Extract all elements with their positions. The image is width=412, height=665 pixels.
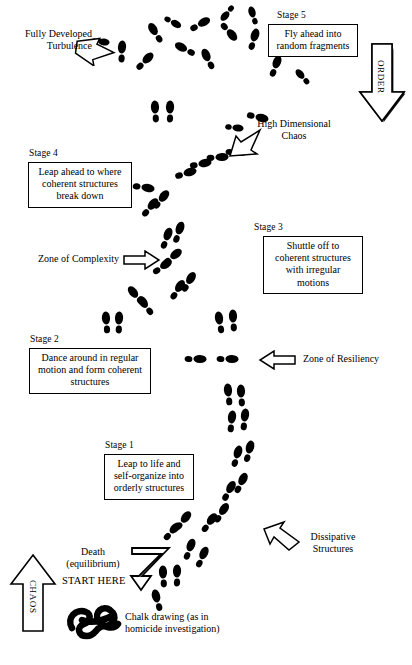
stage-box-line: structures (35, 376, 145, 388)
annotation-chalk-drawing: Chalk drawing (as in homicide investigat… (125, 611, 220, 635)
footprint-scatter-22 (117, 40, 127, 63)
stage-box-line: Dance around in regular (35, 352, 145, 364)
annotation-fully-developed-turbulence: Fully Developed Turbulence (6, 28, 92, 52)
footprint-pair-04 (161, 509, 193, 542)
stage-label-3: Stage 3 (254, 222, 283, 233)
footprint-pair-12 (102, 311, 124, 333)
footprint-scatter-24 (163, 15, 196, 59)
zigzag-arrow-down-icon (128, 545, 174, 593)
annotation-start-here: START HERE (62, 575, 126, 587)
footprint-pair-20 (132, 181, 155, 193)
stage-box-2: Dance around in regular motion and form … (29, 348, 151, 394)
annotation-line: (equilibrium) (57, 558, 129, 570)
footprint-scatter-23 (134, 21, 164, 71)
arrow-up-left-icon (262, 520, 302, 552)
footprint-scatter-25 (188, 15, 216, 70)
order-arrow-label: ORDER (376, 60, 386, 94)
order-arrow: ORDER (357, 42, 407, 124)
stage-box-line: coherent structures (34, 178, 126, 190)
annotation-line: Zone of Resiliency (303, 353, 379, 365)
stage-label-1: Stage 1 (105, 440, 134, 451)
stage-box-line: Leap ahead to where (34, 166, 126, 178)
stage-label-5: Stage 5 (277, 10, 306, 21)
stage-box-1: Leap to life and self-organize into orde… (104, 454, 194, 500)
annotation-line: Chalk drawing (as in (125, 611, 220, 623)
footprint-pair-14 (168, 270, 198, 301)
footprint-pair-18 (174, 158, 212, 180)
annotation-line: START HERE (62, 575, 126, 587)
footprint-pair-05 (199, 501, 231, 533)
stage-box-5: Fly ahead into random fragments (268, 24, 358, 57)
annotation-line: homicide investigation) (125, 623, 220, 635)
stage-label-4: Stage 4 (29, 148, 58, 159)
footprint-pair-09 (223, 383, 245, 406)
stage-box-line: break down (34, 190, 126, 202)
footprint-pair-11 (214, 309, 238, 334)
annotation-line: Death (57, 546, 129, 558)
annotation-death-equilibrium: Death (equilibrium) (57, 546, 129, 570)
annotation-line: Turbulence (6, 40, 92, 52)
diagram-canvas: ORDER CHAOS (0, 0, 412, 665)
footprint-pair-10-sideways (184, 354, 238, 363)
footprint-scatter-26 (219, 4, 240, 43)
annotation-line: Structures (297, 543, 369, 555)
footprint-scatter-31 (294, 67, 311, 86)
chaos-arrow-label: CHAOS (28, 580, 38, 614)
annotation-zone-of-resiliency: Zone of Resiliency (303, 353, 379, 365)
stage-box-line: Leap to life and (110, 458, 188, 470)
stage-box-line: self-organize into (110, 470, 188, 482)
footprint-pair-13 (126, 284, 155, 317)
stage-box-line: Shuttle off to (269, 240, 357, 252)
footprint-scatter-27 (246, 6, 261, 51)
annotation-line: Zone of Complexity (38, 253, 119, 265)
footprint-pair-16 (158, 220, 186, 249)
annotation-dissipative-structures: Dissipative Structures (297, 531, 369, 555)
stage-box-line: orderly structures (110, 482, 188, 494)
footprint-pair-03 (181, 537, 210, 568)
arrow-right-icon (123, 250, 161, 270)
stage-box-line: motion and form coherent (35, 364, 145, 376)
footprint-pair-17 (140, 188, 172, 218)
footprint-pair-07 (229, 440, 255, 468)
stage-box-line: coherent structures (269, 252, 357, 264)
chaos-arrow: CHAOS (8, 552, 58, 634)
stage-box-4: Leap ahead to where coherent structures … (28, 162, 132, 208)
annotation-line: Dissipative (297, 531, 369, 543)
chalk-drawing-figure (62, 598, 132, 648)
arrow-left-icon (258, 350, 296, 370)
annotation-line: Chaos (248, 130, 340, 142)
stage-box-line: Fly ahead into (274, 28, 352, 40)
stage-box-line: random fragments (274, 40, 352, 52)
stage-box-line: with irregular motions (269, 264, 357, 288)
stage-label-2: Stage 2 (30, 334, 59, 345)
footprint-pair-08 (226, 408, 250, 433)
annotation-zone-of-complexity: Zone of Complexity (38, 253, 119, 265)
annotation-high-dimensional-chaos: High Dimensional Chaos (248, 118, 340, 142)
annotation-line: Fully Developed (6, 28, 92, 40)
annotation-line: High Dimensional (248, 118, 340, 130)
footprint-pair-06 (220, 471, 250, 502)
footprint-pair-21 (151, 100, 175, 122)
stage-box-3: Shuttle off to coherent structures with … (263, 236, 363, 294)
